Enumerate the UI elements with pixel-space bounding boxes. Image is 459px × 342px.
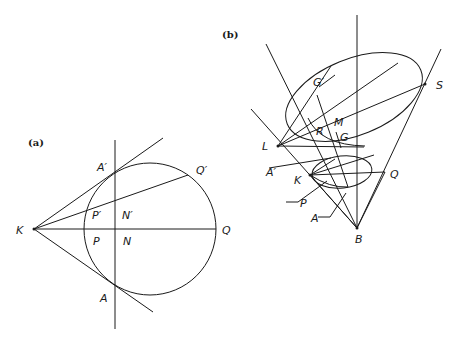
label-q-prime: Q′ bbox=[196, 164, 208, 177]
point-l bbox=[277, 145, 280, 148]
label-a-prime-b: A′ bbox=[265, 166, 277, 179]
label-m: M bbox=[334, 116, 344, 129]
panel-label-a: (a) bbox=[28, 137, 44, 148]
large-ellipse bbox=[273, 35, 435, 159]
label-a-b: A bbox=[310, 212, 319, 225]
label-a: A bbox=[99, 292, 108, 305]
label-k-b: K bbox=[294, 174, 302, 187]
figure-b: (b) bbox=[222, 15, 443, 246]
label-s: S bbox=[436, 79, 443, 92]
label-g-prime: G′ bbox=[313, 76, 325, 89]
point-s bbox=[424, 83, 427, 86]
label-a-prime: A′ bbox=[96, 161, 108, 174]
label-q-b: Q bbox=[390, 168, 399, 181]
label-l: L bbox=[262, 140, 268, 153]
diagram-canvas: (a) A′ Q′ P′ N′ K P N Q A (b) bbox=[0, 0, 459, 342]
point-b bbox=[356, 227, 359, 230]
label-g: G bbox=[340, 131, 349, 144]
label-k-a: K bbox=[16, 224, 24, 237]
line-k-upper bbox=[310, 155, 374, 175]
geometry-figure: (a) A′ Q′ P′ N′ K P N Q A (b) bbox=[0, 0, 459, 342]
label-n: N bbox=[123, 235, 131, 248]
secant-kq-prime bbox=[34, 175, 188, 229]
line-l-g bbox=[278, 146, 364, 147]
panel-label-b: (b) bbox=[222, 29, 238, 40]
label-p-b: P bbox=[300, 197, 307, 210]
label-r: R bbox=[316, 125, 324, 138]
cone-line-right bbox=[357, 49, 441, 228]
line-b-q bbox=[357, 172, 385, 228]
point-k-b bbox=[309, 174, 312, 177]
label-b: B bbox=[355, 233, 363, 246]
line-l-s bbox=[278, 84, 425, 146]
figure-a: (a) A′ Q′ P′ N′ K P N Q A bbox=[16, 137, 231, 329]
point-k-a bbox=[33, 228, 36, 231]
label-n-prime: N′ bbox=[122, 209, 133, 222]
label-q-a: Q bbox=[222, 224, 231, 237]
line-k-q bbox=[310, 172, 385, 175]
pointer-a-prime bbox=[269, 158, 331, 168]
label-p-prime: P′ bbox=[92, 209, 102, 222]
label-p: P bbox=[93, 235, 100, 248]
